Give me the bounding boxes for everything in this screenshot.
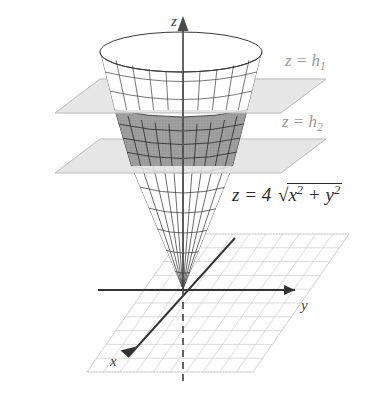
surface-equation-label: z = 4 √x2 + y2: [232, 183, 342, 204]
radical-sign: √x2 + y2: [276, 183, 342, 204]
y-axis-label: y: [301, 298, 308, 313]
lower-plane-label: z = h2: [282, 113, 323, 133]
z-axis-label: z: [171, 14, 177, 29]
x-axis-label: x: [110, 354, 117, 369]
upper-plane-label: z = h1: [285, 52, 326, 72]
